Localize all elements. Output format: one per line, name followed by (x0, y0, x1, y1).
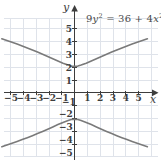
y-tick-label: −5 (59, 148, 72, 158)
y-tick-label: −1 (62, 97, 75, 107)
hyperbola-graph-figure: 9y2 = 36 + 4x2 x y −5 −4 −3 −2 −1 1 2 3 … (0, 0, 161, 163)
grid-lines (4, 18, 158, 156)
axes (4, 5, 159, 160)
y-tick-label: 1 (59, 76, 72, 86)
equation-annotation: 9y2 = 36 + 4x2 (86, 13, 161, 24)
equation-text: 9y2 = 36 + 4x2 (86, 13, 161, 24)
y-axis-label: y (63, 1, 69, 14)
x-axis-label: x (150, 93, 156, 106)
y-axis-arrow (71, 5, 78, 12)
plot-canvas (0, 0, 161, 163)
y-tick-label: 2 (59, 63, 72, 73)
y-tick-label: 4 (59, 37, 72, 47)
y-tick-label: −2 (59, 109, 72, 119)
x-tick-label: 5 (132, 93, 146, 103)
y-tick-label: −3 (59, 122, 72, 132)
y-tick-label: −4 (59, 135, 72, 145)
y-tick-label: 5 (59, 24, 72, 34)
y-tick-label: 3 (59, 50, 72, 60)
